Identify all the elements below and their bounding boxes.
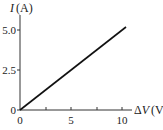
x-tick-label-10: 10 bbox=[117, 114, 129, 126]
y-tick-label-5: 5.0 bbox=[2, 24, 16, 36]
x-axis-label: ΔV(V) bbox=[134, 103, 163, 117]
x-tick-label-0: 0 bbox=[17, 114, 23, 126]
chart: 5.0 2.5 0 0 5 10 I(A) ΔV(V) bbox=[0, 0, 163, 130]
data-line bbox=[20, 27, 126, 110]
x-tick-label-5: 5 bbox=[68, 114, 74, 126]
y-tick-label-2.5: 2.5 bbox=[2, 64, 16, 76]
y-axis-label: I(A) bbox=[9, 1, 33, 15]
y-tick-label-0: 0 bbox=[11, 104, 17, 116]
